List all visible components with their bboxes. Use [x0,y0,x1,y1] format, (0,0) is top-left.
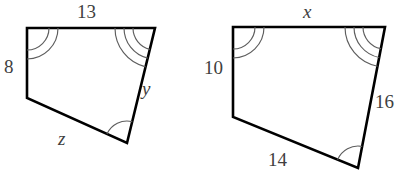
left-quadrilateral-group [27,28,155,143]
figure-canvas [0,0,411,176]
right-quad-left-side-label: 10 [204,58,223,77]
left-quad-right-side-label: y [142,79,150,98]
left-quad-left-side-label: 8 [4,57,14,76]
right-quad-bottom-side-label: 14 [268,150,287,169]
left-quad-bottom-side-label: z [58,129,65,148]
right-quadrilateral-group [233,27,385,168]
right-quad-right-side-label: 16 [375,92,394,111]
geometry-figure: 13 8 z y x 10 14 16 [0,0,411,176]
left-quadrilateral-outline [27,28,155,143]
right-quad-top-side-label: x [303,2,311,21]
left-quad-top-side-label: 13 [77,2,96,21]
